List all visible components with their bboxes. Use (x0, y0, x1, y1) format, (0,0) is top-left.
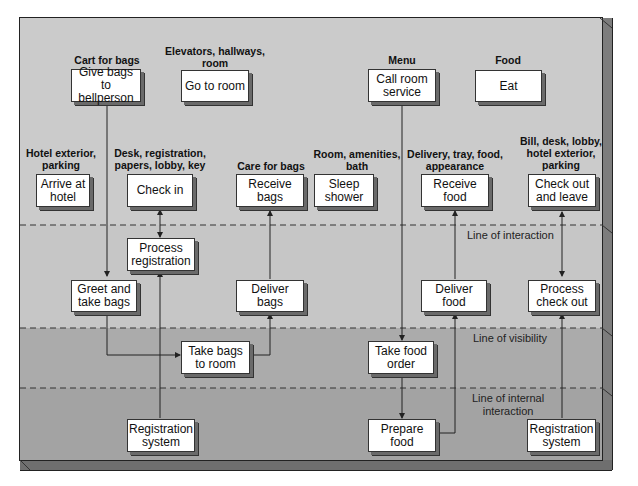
box-receive-bags: Receive bags (236, 174, 304, 207)
box-registration-system-1: Registration system (127, 419, 195, 452)
evidence-elevators: Elevators, hallways,room (165, 45, 265, 69)
box-process-registration: Process registration (127, 238, 195, 271)
label-line-of-interaction: Line of interaction (467, 229, 554, 242)
box-prepare-food: Prepare food (368, 419, 436, 452)
evidence-room-amenities: Room, amenities,bath (314, 148, 401, 172)
box-receive-food: Receive food (421, 174, 489, 207)
label-line-of-visibility: Line of visibility (473, 332, 547, 345)
evidence-desk-registration: Desk, registration,papers, lobby, key (114, 147, 206, 171)
box-take-bags-to-room: Take bags to room (181, 341, 250, 374)
panel-side-edge (602, 18, 613, 470)
label-line-of-internal-interaction: Line of internalinteraction (472, 392, 544, 418)
panel-bottom-edge (20, 460, 612, 471)
box-sleep-shower: Sleep shower (314, 174, 374, 207)
box-deliver-food: Deliver food (421, 280, 487, 312)
box-eat: Eat (475, 70, 542, 102)
evidence-food: Food (495, 54, 521, 66)
evidence-care-for-bags: Care for bags (237, 160, 305, 172)
box-check-in: Check in (127, 174, 193, 207)
evidence-bill-desk: Bill, desk, lobby,hotel exterior,parking (520, 135, 602, 171)
customer-actions-zone (20, 18, 602, 225)
box-process-check-out: Process check out (528, 280, 596, 312)
box-go-to-room: Go to room (181, 70, 249, 102)
evidence-hotel-exterior: Hotel exterior,parking (26, 147, 96, 171)
box-arrive-at-hotel: Arrive at hotel (36, 174, 90, 207)
box-call-room-service: Call room service (368, 69, 436, 102)
box-registration-system-2: Registration system (527, 419, 596, 452)
box-give-bags: Give bags to bellperson (71, 69, 141, 102)
evidence-delivery-tray: Delivery, tray, food,appearance (407, 148, 503, 172)
box-take-food-order: Take food order (368, 341, 434, 374)
box-greet-take-bags: Greet and take bags (71, 280, 137, 312)
box-check-out: Check out and leave (528, 174, 596, 207)
box-deliver-bags: Deliver bags (236, 280, 304, 312)
service-blueprint-diagram: Cart for bags Elevators, hallways,room M… (0, 0, 638, 486)
evidence-menu: Menu (388, 54, 415, 66)
